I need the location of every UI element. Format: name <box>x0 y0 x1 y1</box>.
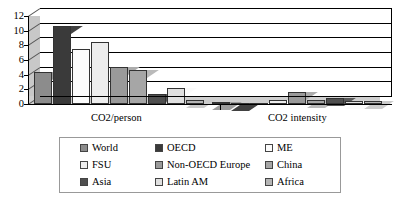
bar-non-oecd-europe-co2-person <box>110 67 128 104</box>
legend-item-asia[interactable]: Asia <box>80 176 111 188</box>
bar-non-oecd-europe-co2-intensity <box>288 92 306 104</box>
bars-layer <box>0 0 400 130</box>
legend-swatch-icon <box>80 161 88 169</box>
bar-world-co2-person <box>34 72 52 104</box>
x-axis-line <box>28 104 392 105</box>
legend-label: World <box>92 142 118 154</box>
legend-item-china[interactable]: China <box>265 159 302 171</box>
co2-bar-chart: 024681012 CO2/person CO2 intensity World… <box>0 0 400 199</box>
legend-label: FSU <box>92 159 111 171</box>
x-axis-label-co2-person: CO2/person <box>91 112 142 123</box>
legend: WorldFSUAsiaOECDNon-OECD EuropeLatin AMM… <box>59 137 341 193</box>
plot-right-edge <box>391 8 392 97</box>
legend-item-africa[interactable]: Africa <box>265 176 304 188</box>
legend-label: Latin AM <box>167 176 208 188</box>
legend-label: Africa <box>277 176 304 188</box>
legend-swatch-icon <box>155 178 163 186</box>
legend-label: OECD <box>167 142 196 154</box>
legend-item-oecd[interactable]: OECD <box>155 142 196 154</box>
x-axis-back-line <box>40 96 392 97</box>
bar-oecd-co2-person <box>53 26 71 104</box>
legend-swatch-icon <box>265 178 273 186</box>
x-axis-label-co2-intensity: CO2 intensity <box>268 112 327 123</box>
legend-swatch-icon <box>265 161 273 169</box>
legend-item-latin-am[interactable]: Latin AM <box>155 176 208 188</box>
legend-item-non-oecd-europe[interactable]: Non-OECD Europe <box>155 159 250 171</box>
legend-label: ME <box>277 142 293 154</box>
legend-item-fsu[interactable]: FSU <box>80 159 111 171</box>
legend-label: Asia <box>92 176 111 188</box>
bar-china-co2-person <box>129 70 147 104</box>
bar-fsu-co2-person <box>91 42 109 104</box>
legend-swatch-icon <box>155 144 163 152</box>
legend-swatch-icon <box>155 161 163 169</box>
y-axis-line <box>28 16 29 105</box>
legend-label: Non-OECD Europe <box>167 159 250 171</box>
x-axis-category-tick <box>220 105 221 110</box>
plot-area: 024681012 CO2/person CO2 intensity <box>0 0 400 130</box>
legend-swatch-icon <box>80 144 88 152</box>
legend-swatch-icon <box>80 178 88 186</box>
legend-item-world[interactable]: World <box>80 142 118 154</box>
legend-label: China <box>277 159 302 171</box>
legend-item-me[interactable]: ME <box>265 142 293 154</box>
legend-swatch-icon <box>265 144 273 152</box>
